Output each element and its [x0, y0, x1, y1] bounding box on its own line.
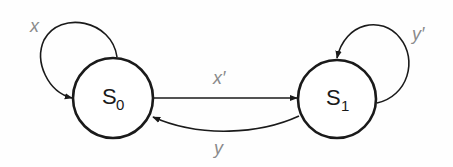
state-diagram: x x′ y y′ S 0 S 1 — [0, 0, 453, 167]
label-x-prime: x′ — [212, 68, 226, 88]
label-y: y — [212, 138, 224, 158]
state-s0-subscript: 0 — [116, 96, 124, 113]
state-s1: S 1 — [298, 60, 376, 138]
state-s1-label: S — [326, 85, 341, 110]
diagram-svg: x x′ y y′ S 0 S 1 — [0, 0, 453, 167]
state-s0-label: S — [102, 84, 117, 109]
transition-s1-s0 — [153, 116, 299, 131]
state-s0: S 0 — [73, 58, 153, 138]
label-x: x — [29, 16, 40, 36]
label-y-prime: y′ — [410, 24, 425, 44]
state-s1-subscript: 1 — [341, 97, 349, 114]
